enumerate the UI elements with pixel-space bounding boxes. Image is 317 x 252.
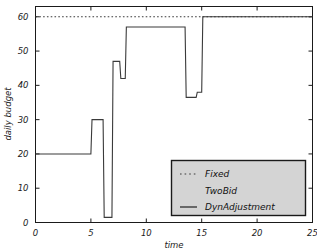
y-tick-label: 20 [18,149,29,159]
legend-label-fixed[interactable]: Fixed [205,169,230,179]
x-axis-label: time [164,240,183,250]
y-tick-label: 30 [18,115,29,125]
legend-label-twobid[interactable]: TwoBid [205,186,237,196]
x-tick-label: 25 [307,228,317,238]
x-tick-label: 10 [141,228,152,238]
y-axis-label: daily budget [3,87,13,141]
y-tick-label: 0 [23,218,28,228]
x-tick-label: 15 [196,228,207,238]
chart-figure: 0102030405060 0510152025 daily budget ti… [0,0,317,252]
y-tick-label: 40 [18,80,29,90]
legend-label-dynadjustment[interactable]: DynAdjustment [205,202,275,212]
x-tick-label: 20 [252,228,263,238]
x-tick-label: 5 [88,228,93,238]
chart-legend[interactable]: FixedTwoBidDynAdjustment [172,161,306,216]
y-tick-label: 50 [18,46,29,56]
y-tick-label: 60 [18,12,29,22]
x-tick-label: 0 [33,228,38,238]
y-tick-label: 10 [18,183,29,193]
